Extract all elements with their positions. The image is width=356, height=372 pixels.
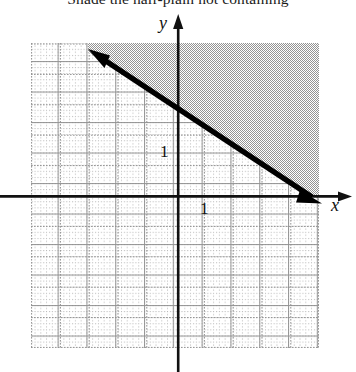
x-axis-label: x [331, 196, 339, 214]
figure-screenshot: Shade the half-plain not containing [0, 0, 356, 372]
coordinate-plane-figure [0, 0, 356, 372]
y-unit-label: 1 [160, 143, 169, 160]
x-axis-arrowhead [338, 191, 352, 201]
coordinate-plane-svg [0, 0, 356, 372]
y-axis-arrowhead [173, 14, 183, 29]
x-unit-label: 1 [200, 200, 209, 217]
y-axis-label: y [159, 14, 167, 32]
